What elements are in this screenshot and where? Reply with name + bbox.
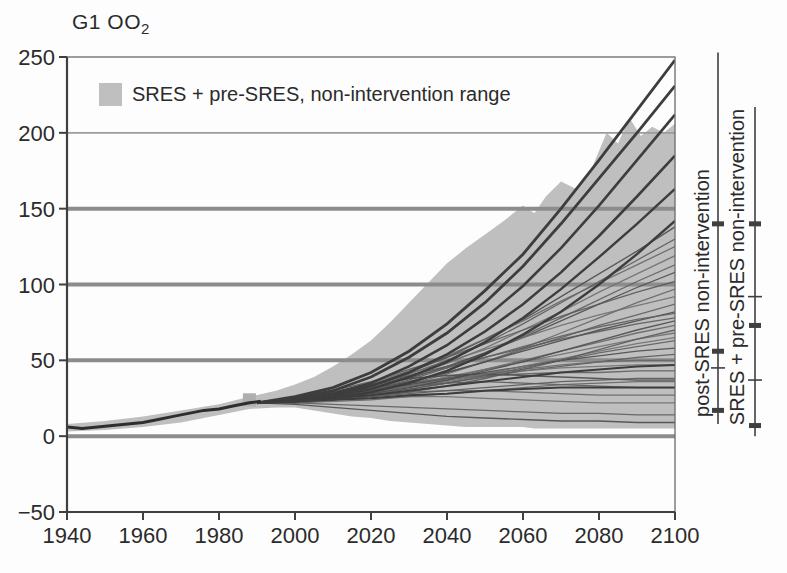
legend-swatch-icon [99,83,122,106]
x-tick-label: 2080 [575,523,624,548]
y-tick-label: 200 [18,121,55,146]
chart-title-subscript: 2 [141,20,150,37]
y-tick-label: 0 [43,424,55,449]
x-tick-label: 1960 [119,523,168,548]
range-bar-label-post-sres: post-SRES non-intervention [690,123,714,463]
y-tick-label: −50 [18,500,55,525]
legend: SRES + pre-SRES, non-intervention range [99,83,511,106]
x-tick-label: 1980 [195,523,244,548]
x-tick-label: 2040 [423,523,472,548]
x-tick-label: 2000 [271,523,320,548]
x-axis-ticks: 194019601980200020202040206020802100 [43,512,700,548]
y-tick-label: 250 [18,45,55,70]
y-tick-label: 150 [18,197,55,222]
emissions-scenarios-figure: −500501001502002501940196019802000202020… [0,0,787,573]
x-tick-label: 2060 [499,523,548,548]
range-bar-sres-pre-sres [748,107,762,436]
y-tick-label: 50 [31,348,55,373]
x-tick-label: 2100 [651,523,700,548]
x-tick-label: 2020 [347,523,396,548]
range-bar-label-sres-pre-sres: SRES + pre-SRES non-intervention [725,67,749,467]
legend-label: SRES + pre-SRES, non-intervention range [132,83,511,106]
chart-title: G1 OO2 [72,10,150,37]
x-tick-label: 1940 [43,523,92,548]
plot-area [67,60,675,436]
y-tick-label: 100 [18,273,55,298]
chart-title-text: G1 OO [72,10,141,33]
y-axis-ticks: −50050100150200250 [18,45,67,525]
